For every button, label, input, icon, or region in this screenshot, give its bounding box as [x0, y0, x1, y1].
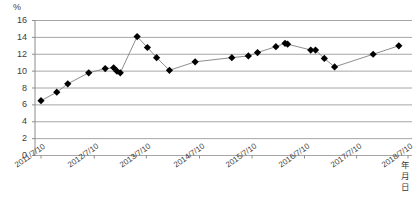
y-tick-label: 8 — [5, 84, 27, 93]
data-point-marker — [53, 89, 60, 96]
data-point-marker — [228, 54, 235, 61]
x-axis-title-char-month: 月 — [400, 171, 411, 182]
line-chart: % 1614121086420 2011/7/102012/7/102013/7… — [0, 0, 413, 207]
y-tick-label: 16 — [5, 16, 27, 25]
data-point-marker — [254, 49, 261, 56]
data-point-marker — [245, 52, 252, 59]
data-point-marker — [192, 58, 199, 65]
x-axis-title: 年 月 日 — [400, 160, 411, 193]
y-tick-label: 12 — [5, 50, 27, 59]
y-tick-label: 6 — [5, 100, 27, 109]
y-tick-label: 14 — [5, 33, 27, 42]
data-point-marker — [85, 69, 92, 76]
data-point-marker — [37, 97, 44, 104]
plot-area — [0, 0, 413, 207]
data-point-marker — [395, 42, 402, 49]
y-tick-label: 10 — [5, 67, 27, 76]
y-tick-label: 2 — [5, 134, 27, 143]
data-point-marker — [272, 43, 279, 50]
x-axis-title-char-day: 日 — [400, 182, 411, 193]
data-point-marker — [64, 80, 71, 87]
data-point-marker — [370, 51, 377, 58]
y-tick-label: 4 — [5, 117, 27, 126]
series-line — [41, 37, 399, 101]
x-axis-title-char-year: 年 — [400, 160, 411, 171]
